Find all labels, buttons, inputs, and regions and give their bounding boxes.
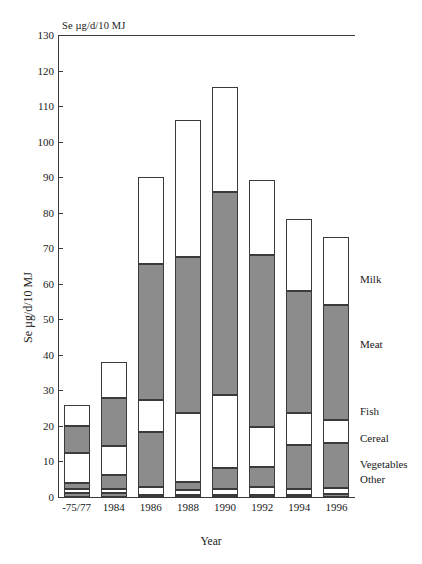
y-tick-label-90: 90 [20, 171, 54, 183]
bar-segment-1990-cereal[interactable] [212, 468, 238, 489]
y-tick-label-100: 100 [20, 136, 54, 148]
bar-1986[interactable] [138, 35, 164, 497]
y-tick-label-20: 20 [20, 420, 54, 432]
bar-segment-1994-other[interactable] [286, 495, 312, 497]
y-tick-label-110: 110 [20, 100, 54, 112]
bar-1996[interactable] [323, 35, 349, 497]
bar-segment--75/77-cereal[interactable] [64, 483, 90, 489]
bar-group [58, 35, 355, 497]
legend-label-meat: Meat [360, 338, 383, 350]
y-tick-label-130: 130 [20, 29, 54, 41]
chart-root: Se µg/d/10 MJ Se µg/d/10 MJ 010203040506… [0, 0, 422, 564]
bar-segment-1994-vegetables[interactable] [286, 489, 312, 495]
bar-segment--75/77-fish[interactable] [64, 453, 90, 483]
bar-1992[interactable] [249, 35, 275, 497]
legend-label-milk: Milk [360, 273, 381, 285]
bar-segment-1988-milk[interactable] [175, 120, 201, 257]
x-tick-label--75/77: -75/77 [62, 501, 91, 513]
bar-segment-1984-meat[interactable] [101, 398, 127, 446]
bar-segment-1988-meat[interactable] [175, 257, 201, 413]
x-axis-title: Year [0, 535, 422, 547]
bar-segment-1988-fish[interactable] [175, 413, 201, 482]
bar-segment--75/77-vegetables[interactable] [64, 489, 90, 493]
bar-segment-1994-meat[interactable] [286, 291, 312, 413]
bar-segment-1994-milk[interactable] [286, 219, 312, 291]
legend-label-fish: Fish [360, 405, 379, 417]
bar-segment-1996-vegetables[interactable] [323, 488, 349, 494]
bar-segment--75/77-meat[interactable] [64, 426, 90, 452]
bar-segment-1986-other[interactable] [138, 495, 164, 497]
bar-segment--75/77-milk[interactable] [64, 405, 90, 427]
bar-segment-1984-other[interactable] [101, 493, 127, 497]
bar-segment-1996-fish[interactable] [323, 420, 349, 443]
bar-segment-1992-cereal[interactable] [249, 467, 275, 487]
bar-segment-1990-milk[interactable] [212, 87, 238, 193]
y-tick-label-80: 80 [20, 207, 54, 219]
y-tick-label-10: 10 [20, 455, 54, 467]
y-tick-label-50: 50 [20, 313, 54, 325]
legend-label-other: Other [360, 473, 385, 485]
bar-segment-1990-meat[interactable] [212, 192, 238, 395]
bar-1988[interactable] [175, 35, 201, 497]
bar-segment-1996-cereal[interactable] [323, 443, 349, 488]
bar-segment-1988-cereal[interactable] [175, 482, 201, 490]
y-tick-label-0: 0 [20, 491, 54, 503]
bar-segment-1990-vegetables[interactable] [212, 489, 238, 495]
bar-segment-1996-other[interactable] [323, 494, 349, 497]
bar-segment-1992-meat[interactable] [249, 255, 275, 427]
x-tick-label-1994: 1994 [288, 501, 310, 513]
y-tick-label-40: 40 [20, 349, 54, 361]
bar-segment-1988-other[interactable] [175, 495, 201, 497]
y-tick-label-30: 30 [20, 384, 54, 396]
bar-segment-1984-vegetables[interactable] [101, 489, 127, 494]
bar-segment-1990-fish[interactable] [212, 395, 238, 468]
legend-label-cereal: Cereal [360, 432, 389, 444]
bar-segment-1996-meat[interactable] [323, 305, 349, 420]
legend-label-vegetables: Vegetables [360, 458, 408, 470]
y-tick-label-120: 120 [20, 65, 54, 77]
bar-segment-1988-vegetables[interactable] [175, 490, 201, 495]
bar-segment-1992-milk[interactable] [249, 180, 275, 255]
x-tick-label-1990: 1990 [214, 501, 236, 513]
bar-segment-1986-cereal[interactable] [138, 432, 164, 487]
bar-segment-1984-milk[interactable] [101, 362, 127, 398]
y-tick-label-60: 60 [20, 278, 54, 290]
x-tick-label-1996: 1996 [325, 501, 347, 513]
bar-segment-1984-fish[interactable] [101, 446, 127, 475]
bar-segment-1992-other[interactable] [249, 495, 275, 497]
bar-segment-1992-vegetables[interactable] [249, 487, 275, 495]
bar-segment-1986-meat[interactable] [138, 264, 164, 400]
bar-segment-1986-milk[interactable] [138, 177, 164, 264]
bar-segment--75/77-other[interactable] [64, 493, 90, 497]
x-tick-label-1992: 1992 [251, 501, 273, 513]
y-tick-label-70: 70 [20, 242, 54, 254]
bar-segment-1990-other[interactable] [212, 495, 238, 497]
x-tick-label-1984: 1984 [103, 501, 125, 513]
bar-1990[interactable] [212, 35, 238, 497]
bar-segment-1984-cereal[interactable] [101, 475, 127, 489]
bar-segment-1994-fish[interactable] [286, 413, 312, 445]
bar-segment-1992-fish[interactable] [249, 427, 275, 468]
bar-1994[interactable] [286, 35, 312, 497]
y-axis-tick-labels: 0102030405060708090100110120130 [14, 0, 54, 564]
x-tick-label-1988: 1988 [177, 501, 199, 513]
unit-caption: Se µg/d/10 MJ [62, 20, 125, 31]
bar--75/77[interactable] [64, 35, 90, 497]
bar-segment-1986-fish[interactable] [138, 400, 164, 432]
x-tick-label-1986: 1986 [140, 501, 162, 513]
bar-segment-1996-milk[interactable] [323, 237, 349, 305]
bar-segment-1986-vegetables[interactable] [138, 487, 164, 495]
bar-segment-1994-cereal[interactable] [286, 445, 312, 489]
bar-1984[interactable] [101, 35, 127, 497]
